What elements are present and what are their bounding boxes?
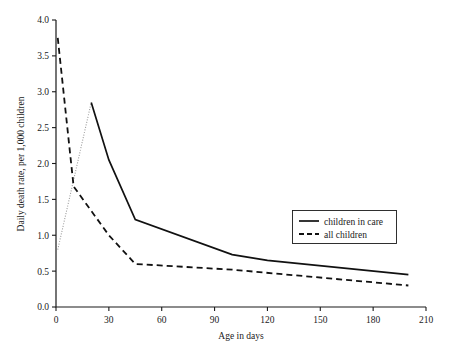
x-tick-label: 120 [260,315,275,325]
y-tick-label: 3.5 [37,51,49,61]
chart-container: 0.00.51.01.52.02.53.03.54.0 030609012015… [0,0,450,354]
y-tick-label: 2.0 [37,159,49,169]
y-tick-label: 4.0 [37,15,49,25]
series-children-in-care-rise [58,103,91,250]
x-tick-label: 150 [313,315,328,325]
chart-axes [56,20,426,307]
x-tick-label: 90 [210,315,220,325]
x-axis-title: Age in days [218,331,264,341]
y-tick-label: 2.5 [37,123,49,133]
y-tick-label: 3.0 [37,87,49,97]
series-children-in-care [91,103,408,275]
y-axis-title: Daily death rate, per 1,000 children [16,96,26,231]
x-tick-label: 60 [157,315,167,325]
x-tick-label: 0 [54,315,59,325]
y-tick-label: 0.5 [37,267,49,277]
x-axis-tick-labels: 0306090120150180210 [54,315,434,325]
legend-label-all-children: all children [324,230,367,240]
y-axis-tick-labels: 0.00.51.01.52.02.53.03.54.0 [37,15,49,312]
x-tick-label: 180 [366,315,381,325]
line-chart: 0.00.51.01.52.02.53.03.54.0 030609012015… [0,0,450,354]
y-tick-label: 1.5 [37,195,49,205]
x-tick-label: 210 [419,315,434,325]
y-tick-label: 0.0 [37,302,49,312]
chart-legend: children in care all children [293,211,397,244]
x-tick-label: 30 [104,315,114,325]
legend-label-children-in-care: children in care [324,217,383,227]
y-tick-label: 1.0 [37,231,49,241]
